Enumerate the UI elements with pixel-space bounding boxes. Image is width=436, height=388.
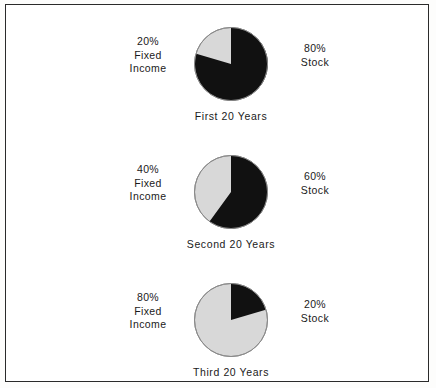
fixed-income-label-first: 20% Fixed Income: [108, 35, 188, 76]
stock-name: Stock: [270, 184, 360, 198]
fixed-income-percent: 20%: [108, 35, 188, 49]
pie-chart-block-second: 40% Fixed Income 60% Stock Second 20 Yea…: [12, 139, 434, 265]
fixed-income-label-second: 40% Fixed Income: [108, 163, 188, 204]
fixed-income-name-line1: Fixed: [108, 305, 188, 319]
pie-third-20-years: [192, 281, 270, 359]
fixed-income-name-line2: Income: [108, 318, 188, 332]
pie-chart-block-first: 20% Fixed Income 80% Stock First 20 Year…: [12, 11, 434, 137]
pie-svg-second: [192, 153, 270, 231]
chart-frame-border: 20% Fixed Income 80% Stock First 20 Year…: [5, 4, 429, 382]
fixed-income-name-line1: Fixed: [108, 49, 188, 63]
fixed-income-label-third: 80% Fixed Income: [108, 291, 188, 332]
pie-svg-third: [192, 281, 270, 359]
stock-percent: 20%: [270, 298, 360, 312]
stock-label-first: 80% Stock: [270, 42, 360, 69]
fixed-income-name-line1: Fixed: [108, 177, 188, 191]
fixed-income-percent: 40%: [108, 163, 188, 177]
pie-caption-second: Second 20 Years: [151, 238, 311, 251]
stock-label-second: 60% Stock: [270, 170, 360, 197]
stock-name: Stock: [270, 56, 360, 70]
stock-name: Stock: [270, 312, 360, 326]
pie-caption-first: First 20 Years: [151, 110, 311, 123]
pie-svg-first: [192, 25, 270, 103]
stock-label-third: 20% Stock: [270, 298, 360, 325]
pie-second-20-years: [192, 153, 270, 231]
pie-chart-block-third: 80% Fixed Income 20% Stock Third 20 Year…: [12, 267, 434, 388]
pie-caption-third: Third 20 Years: [151, 366, 311, 379]
stock-percent: 80%: [270, 42, 360, 56]
pie-first-20-years: [192, 25, 270, 103]
fixed-income-name-line2: Income: [108, 62, 188, 76]
fixed-income-percent: 80%: [108, 291, 188, 305]
stock-percent: 60%: [270, 170, 360, 184]
scanned-page: 20% Fixed Income 80% Stock First 20 Year…: [0, 0, 436, 388]
fixed-income-name-line2: Income: [108, 190, 188, 204]
